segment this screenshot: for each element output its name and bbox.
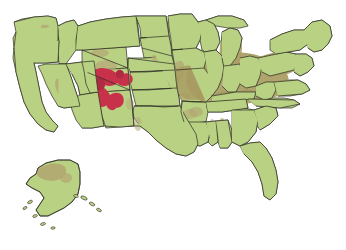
overlay-blob-washington bbox=[41, 24, 49, 30]
overlay-blob-mississippi bbox=[209, 119, 215, 133]
overlay-blob-new-mexico-east bbox=[126, 98, 134, 110]
aleutian-fleck-5 bbox=[51, 227, 56, 230]
overlay-blob-north-dakota bbox=[148, 27, 160, 33]
state-north-dakota bbox=[136, 16, 169, 38]
panhandle-fleck-3 bbox=[96, 208, 102, 213]
us-map-graphic bbox=[0, 0, 346, 250]
panhandle-fleck-2 bbox=[89, 201, 96, 206]
overlay-blob-alabama bbox=[218, 118, 226, 138]
overlay-blob-carolina bbox=[266, 99, 278, 105]
aleutian-fleck-4 bbox=[40, 222, 46, 226]
overlay-mass-pennsylvania bbox=[259, 52, 298, 76]
state-georgia bbox=[232, 108, 258, 146]
panhandle-fleck-1 bbox=[80, 195, 88, 201]
alaska-inset bbox=[22, 160, 101, 229]
aleutian-fleck-3 bbox=[32, 214, 37, 218]
overlay-blob-tennessee bbox=[212, 101, 240, 111]
overlay-blob-texas-west bbox=[134, 117, 142, 131]
overlay-blob-virginia bbox=[278, 83, 294, 93]
state-new-york bbox=[270, 30, 310, 54]
aleutian-fleck-2 bbox=[22, 206, 27, 210]
state-florida bbox=[240, 142, 278, 200]
overlay-blob-arkansas bbox=[189, 107, 203, 117]
overlay-blob-new-england bbox=[314, 39, 322, 45]
state-idaho bbox=[58, 20, 78, 64]
aleutian-fleck-1 bbox=[27, 200, 33, 205]
overlay-blob-alaska-interior bbox=[60, 173, 72, 183]
state-oklahoma bbox=[132, 88, 180, 107]
overlay-blob-wyoming-north bbox=[91, 49, 109, 57]
state-south-carolina bbox=[254, 106, 278, 130]
map-container bbox=[0, 0, 346, 250]
state-new-england bbox=[304, 20, 332, 52]
state-minnesota bbox=[168, 14, 202, 50]
